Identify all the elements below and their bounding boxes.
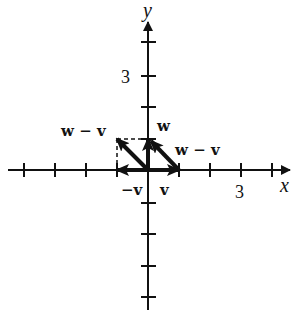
vectors [117, 139, 179, 170]
label-w-minus-v-right: w − v [174, 141, 221, 159]
y-axis-label: y [141, 0, 152, 22]
vector-diagram: y x 3 3 w w − v w − v −v v [0, 0, 297, 313]
label-w-minus-v-left: w − v [60, 122, 107, 140]
x-axis-label: x [279, 174, 289, 196]
vector-w-minus-v-left [117, 139, 148, 170]
label-w: w [156, 117, 171, 135]
x-tick-label-3: 3 [235, 182, 244, 202]
label-neg-v: −v [121, 181, 144, 199]
y-tick-label-3: 3 [121, 67, 130, 87]
label-v: v [159, 181, 170, 199]
